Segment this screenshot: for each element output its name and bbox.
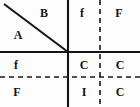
- label-c-mid: C: [80, 59, 89, 71]
- diagram-canvas: A B f F f C C F I C: [0, 0, 140, 107]
- label-a: A: [14, 29, 23, 41]
- label-b: B: [40, 7, 48, 19]
- label-c-bottom: C: [116, 86, 125, 98]
- label-f-top-right: F: [115, 7, 122, 19]
- label-f-mid-left: f: [14, 59, 18, 71]
- label-i-bottom: I: [82, 86, 87, 98]
- label-f-bottom: F: [13, 86, 20, 98]
- label-c-mid-right: C: [116, 59, 125, 71]
- label-f-top: f: [80, 7, 84, 19]
